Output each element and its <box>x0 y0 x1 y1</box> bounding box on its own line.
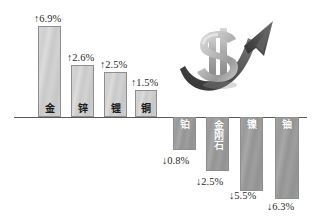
bar-negative: 铀 <box>275 117 299 199</box>
bar-value-label: ↑2.6% <box>67 52 94 63</box>
bar-category-label: 金刚石 <box>212 118 223 150</box>
bar-category-label: 镍 <box>247 118 257 131</box>
bar-negative: 金刚石 <box>206 117 229 171</box>
bar-value-label: ↑2.5% <box>100 59 127 70</box>
bar-positive: 锂 <box>104 72 127 117</box>
bar-category-label: 金 <box>45 104 55 117</box>
bar-category-label: 铜 <box>141 104 151 117</box>
bar-value-label: ↓6.3% <box>267 201 294 212</box>
bar-negative: 铂 <box>173 117 196 150</box>
bar-category-label: 锂 <box>111 104 121 117</box>
bar-value-label: ↓2.5% <box>196 176 223 187</box>
bar-value-label: ↓5.5% <box>229 190 256 201</box>
bar-positive: 金 <box>38 26 61 117</box>
bar-value-label: ↑1.5% <box>131 77 158 88</box>
bar-positive: 铜 <box>135 90 157 117</box>
bar-category-label: 铀 <box>282 118 292 131</box>
bar-value-label: ↑6.9% <box>34 13 61 24</box>
bar-category-label: 铂 <box>180 118 190 131</box>
zero-baseline-axis <box>14 117 307 118</box>
bar-positive: 锌 <box>71 65 94 117</box>
bar-negative: 镍 <box>240 117 263 191</box>
bar-value-label: ↓0.8% <box>162 155 189 166</box>
bar-chart: 金↑6.9%锌↑2.6%锂↑2.5%铜↑1.5%铂↓0.8%金刚石↓2.5%镍↓… <box>0 0 321 222</box>
bar-category-label: 锌 <box>78 104 88 117</box>
dollar-sign-rising-arrow-icon <box>176 12 280 98</box>
